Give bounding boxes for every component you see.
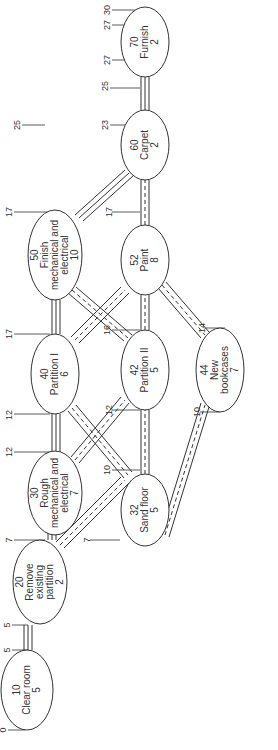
node-label: 10 (69, 249, 80, 261)
activity-node-20: 20Removeexistingpartition2 (13, 540, 67, 624)
activity-node-60: 60Carpet2 (121, 110, 169, 180)
time-label: 27 (102, 55, 112, 65)
network-diagram: 10Clear room520Removeexistingpartition23… (0, 0, 278, 750)
activity-node-44: 44Newbookcases7 (196, 328, 244, 412)
activity-node-32: 32Sand floor5 (121, 474, 169, 546)
time-label: 17 (4, 207, 14, 217)
time-label: 7 (82, 537, 92, 542)
activity-nodes: 10Clear room520Removeexistingpartition23… (1, 7, 244, 730)
time-label: 23 (100, 120, 110, 130)
activity-node-70: 70Furnish2 (121, 7, 169, 77)
time-label: 25 (100, 81, 110, 91)
time-label: 0 (0, 727, 8, 732)
time-label: 10 (102, 465, 112, 475)
time-label: 5 (2, 647, 12, 652)
node-label: 6 (59, 371, 70, 377)
time-label: 30 (102, 5, 112, 15)
time-label: 12 (4, 410, 14, 420)
time-label: 14 (197, 323, 207, 333)
node-label: 5 (31, 687, 42, 693)
activity-node-42: 42Partition II5 (121, 330, 169, 410)
time-label: 16 (102, 325, 112, 335)
time-label: 5 (2, 622, 12, 627)
time-label: 27 (102, 20, 112, 30)
activity-node-50: 50Finishmechanical andelectrical10 (28, 210, 82, 300)
activity-node-52: 52Paint8 (121, 225, 169, 295)
time-label: 10 (192, 407, 202, 417)
node-label: 2 (149, 39, 160, 45)
node-label: 5 (149, 507, 160, 513)
time-label: 25 (12, 120, 22, 130)
node-label: 2 (54, 579, 65, 585)
node-label: 7 (229, 367, 240, 373)
time-label: 17 (104, 207, 114, 217)
node-label: 8 (149, 257, 160, 263)
activity-node-30: 30Roughmechanical andelectrical7 (28, 451, 82, 535)
node-label: 7 (69, 490, 80, 496)
time-label: 12 (104, 405, 114, 415)
node-label: 5 (149, 367, 160, 373)
time-label: 17 (4, 329, 14, 339)
time-label: 7 (4, 537, 14, 542)
activity-node-40: 40Partition I6 (31, 334, 79, 414)
activity-node-10: 10Clear room5 (1, 650, 53, 730)
node-label: 2 (149, 142, 160, 148)
time-label: 12 (4, 447, 14, 457)
